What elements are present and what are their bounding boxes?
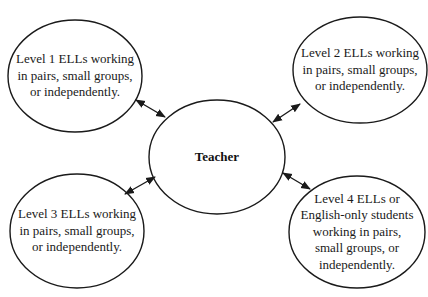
level-3-text: Level 3 ELLs working in pairs, small gro…: [18, 206, 136, 256]
level-3-node: Level 3 ELLs working in pairs, small gro…: [10, 174, 144, 288]
level-4-line-5: independently.: [300, 257, 413, 274]
level-1-line-3: or independently.: [16, 84, 134, 101]
level-3-line-3: or independently.: [18, 239, 136, 256]
level-4-line-1: Level 4 ELLs or: [300, 191, 413, 208]
teacher-node: Teacher: [149, 100, 285, 214]
teacher-label: Teacher: [195, 149, 239, 165]
level-4-line-3: working in pairs,: [300, 224, 413, 241]
level-4-line-2: English-only students: [300, 207, 413, 224]
level-2-line-1: Level 2 ELLs working: [301, 45, 419, 62]
level-4-line-4: small groups, or: [300, 240, 413, 257]
teacher-ell-grouping-diagram: Teacher Level 1 ELLs working in pairs, s…: [0, 0, 428, 297]
level-3-line-1: Level 3 ELLs working: [18, 206, 136, 223]
level-3-line-2: in pairs, small groups,: [18, 223, 136, 240]
level-1-node: Level 1 ELLs working in pairs, small gro…: [8, 20, 142, 132]
level-1-line-2: in pairs, small groups,: [16, 68, 134, 85]
level-1-text: Level 1 ELLs working in pairs, small gro…: [16, 51, 134, 101]
level-2-node: Level 2 ELLs working in pairs, small gro…: [293, 17, 427, 123]
level-4-text: Level 4 ELLs or English-only students wo…: [300, 191, 413, 274]
level-2-line-2: in pairs, small groups,: [301, 62, 419, 79]
level-2-text: Level 2 ELLs working in pairs, small gro…: [301, 45, 419, 95]
level-4-node: Level 4 ELLs or English-only students wo…: [289, 176, 425, 288]
level-1-line-1: Level 1 ELLs working: [16, 51, 134, 68]
level-2-line-3: or independently.: [301, 78, 419, 95]
